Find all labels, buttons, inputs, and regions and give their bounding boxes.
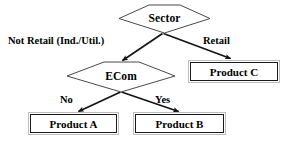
node-sector-label: Sector — [118, 4, 211, 34]
node-sector[interactable]: Sector — [118, 4, 211, 34]
node-ecom-label: ECom — [66, 61, 176, 93]
decision-tree-diagram: Sector ECom Product C Product A Product … — [0, 0, 286, 147]
node-ecom[interactable]: ECom — [66, 61, 176, 93]
node-product-b-label: Product B — [156, 118, 204, 130]
edge-root-to-ecom — [123, 34, 163, 61]
edge-label-no: No — [60, 94, 73, 105]
node-product-c-frame: Product C — [190, 62, 278, 81]
edge-label-retail: Retail — [203, 35, 230, 46]
edge-label-not-retail: Not Retail (Ind./Util.) — [8, 35, 104, 46]
node-product-c-label: Product C — [210, 66, 258, 78]
node-product-a-label: Product A — [50, 118, 98, 130]
node-product-c[interactable]: Product C — [188, 60, 280, 83]
node-product-a[interactable]: Product A — [28, 112, 119, 135]
node-product-b-frame: Product B — [135, 114, 224, 133]
edge-label-yes: Yes — [155, 94, 170, 105]
edge-ecom-to-product-a — [79, 92, 121, 112]
node-product-a-frame: Product A — [30, 114, 117, 133]
node-product-b[interactable]: Product B — [133, 112, 226, 135]
